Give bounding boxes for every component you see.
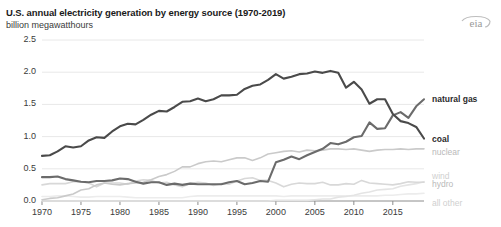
series-label-hydro: hydro — [432, 179, 453, 189]
x-axis-tick-label: 2000 — [256, 207, 296, 217]
chart-plot-area — [0, 0, 501, 227]
y-axis-tick-label: 0.5 — [6, 163, 36, 173]
x-axis-tick-label: 1990 — [178, 207, 218, 217]
y-axis-tick-label: 1.5 — [6, 98, 36, 108]
series-line-coal — [42, 71, 424, 156]
x-axis-tick-label: 2005 — [295, 207, 335, 217]
x-axis-tick-label: 1975 — [61, 207, 101, 217]
y-axis-tick-label: 1.0 — [6, 131, 36, 141]
series-line-natural-gas — [42, 99, 424, 185]
y-axis-tick-label: 2.5 — [6, 34, 36, 44]
x-axis-tick-label: 1970 — [22, 207, 62, 217]
series-line-all-other — [42, 193, 424, 198]
series-label-natural-gas: natural gas — [432, 94, 477, 104]
series-label-nuclear: nuclear — [432, 147, 460, 157]
series-label-coal: coal — [432, 134, 449, 144]
x-axis-tick-label: 1980 — [100, 207, 140, 217]
y-axis-tick-label: 0.0 — [6, 195, 36, 205]
x-axis-tick-label: 2015 — [373, 207, 413, 217]
series-label-all-other: all other — [432, 198, 462, 208]
x-axis-tick-label: 1985 — [139, 207, 179, 217]
x-axis-tick-label: 2010 — [334, 207, 374, 217]
y-axis-tick-label: 2.0 — [6, 66, 36, 76]
x-axis-tick-label: 1995 — [217, 207, 257, 217]
